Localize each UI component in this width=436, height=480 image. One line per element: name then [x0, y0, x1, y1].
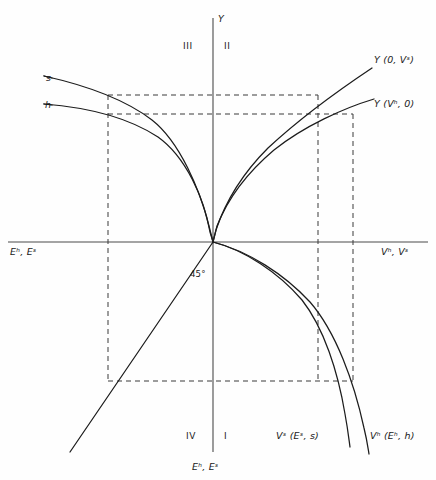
axis-label-e-left: Eʰ, Eˢ [10, 246, 37, 257]
curve-label-y-of-vs: Y (0, Vˢ) [374, 54, 414, 65]
figure-canvas [0, 0, 436, 480]
curve-label-h-tail: h [45, 99, 51, 110]
quadrant-label-i: I [224, 431, 227, 441]
quadrant-label-iii: III [183, 41, 193, 51]
quadrant-label-iv: IV [186, 431, 196, 441]
curve-label-vs-of-es: Vˢ (Eˢ, s) [276, 430, 319, 441]
figure-container: Y III II IV I Eʰ, Eˢ Vʰ, Vˢ Eʰ, Eˢ 45° Y… [0, 0, 436, 480]
quadrant-label-ii: II [224, 41, 231, 51]
curve-label-y-of-vh: Y (Vʰ, 0) [374, 98, 414, 109]
curve-vh-of-eh [213, 242, 369, 454]
angle-label-45: 45° [190, 269, 206, 279]
curve-label-s-tail: s [46, 72, 51, 83]
curve-y-of-vh [44, 99, 374, 242]
axis-label-e-bottom: Eʰ, Eˢ [192, 461, 219, 472]
axis-label-v-right: Vʰ, Vˢ [381, 246, 409, 257]
curve-y-of-vs [44, 68, 372, 242]
axis-label-y-top: Y [218, 13, 224, 24]
curve-label-vh-of-eh: Vʰ (Eʰ, h) [370, 430, 415, 441]
curve-vs-of-es [213, 242, 350, 447]
